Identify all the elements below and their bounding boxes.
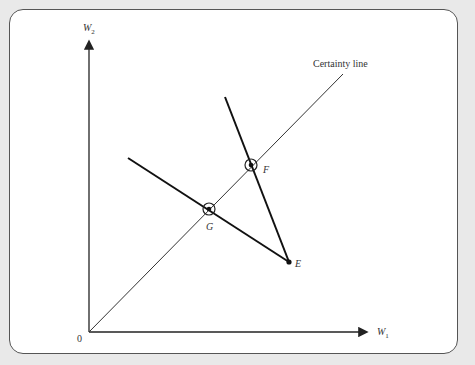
point-G-label: G	[206, 222, 213, 232]
diagram-canvas	[0, 0, 475, 365]
point-F	[249, 163, 254, 168]
point-E	[286, 259, 291, 264]
point-G	[207, 207, 212, 212]
y-axis-label: W2	[83, 23, 95, 36]
certainty-line	[89, 74, 343, 332]
budget-line-steep	[225, 97, 289, 262]
x-axis-label: W1	[377, 327, 389, 340]
point-F-label: F	[263, 165, 269, 175]
origin-label: 0	[77, 334, 82, 344]
point-E-label: E	[295, 259, 301, 269]
certainty-line-label: Certainty line	[313, 59, 368, 69]
